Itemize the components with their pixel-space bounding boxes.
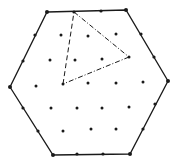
diagram-canvas <box>0 0 173 164</box>
edge-point <box>21 59 24 62</box>
interior-point <box>128 56 131 59</box>
interior-point <box>87 82 90 85</box>
edge-point <box>153 102 156 105</box>
hexagon-vertex-point <box>166 79 170 83</box>
dashed-triangle <box>63 12 129 84</box>
edge-point <box>139 32 142 35</box>
interior-point <box>115 82 118 85</box>
edge-point <box>75 152 78 155</box>
edge-point <box>101 152 104 155</box>
edge-point <box>99 9 102 12</box>
triangle-edge-2 <box>63 12 74 84</box>
hexagon-vertex-point <box>51 153 55 157</box>
interior-point <box>62 83 65 86</box>
edge-point <box>33 33 36 36</box>
hexagonal-lattice-diagram <box>0 0 173 164</box>
interior-point <box>115 128 118 131</box>
edge-point <box>141 127 144 130</box>
interior-point <box>62 130 65 133</box>
interior-point <box>50 107 53 110</box>
edge-point <box>152 55 155 58</box>
interior-point <box>115 33 118 36</box>
hexagon-vertex-point <box>45 10 49 14</box>
interior-point <box>60 34 63 37</box>
edge-point <box>36 129 39 132</box>
triangle-edge-0 <box>74 12 129 57</box>
interior-point <box>76 107 79 110</box>
hexagon-vertex-point <box>124 8 128 12</box>
edge-point <box>72 10 75 13</box>
lattice-points <box>8 8 170 157</box>
interior-point <box>128 106 131 109</box>
interior-point <box>49 59 52 62</box>
interior-point <box>101 107 104 110</box>
interior-point <box>35 85 38 88</box>
edge-point <box>21 106 24 109</box>
interior-point <box>87 35 90 38</box>
hexagon-vertex-point <box>8 85 12 89</box>
hexagon-vertex-point <box>128 152 132 156</box>
interior-point <box>74 59 77 62</box>
interior-point <box>90 128 93 131</box>
interior-point <box>142 81 145 84</box>
triangle-edge-1 <box>63 57 129 84</box>
interior-point <box>101 58 104 61</box>
